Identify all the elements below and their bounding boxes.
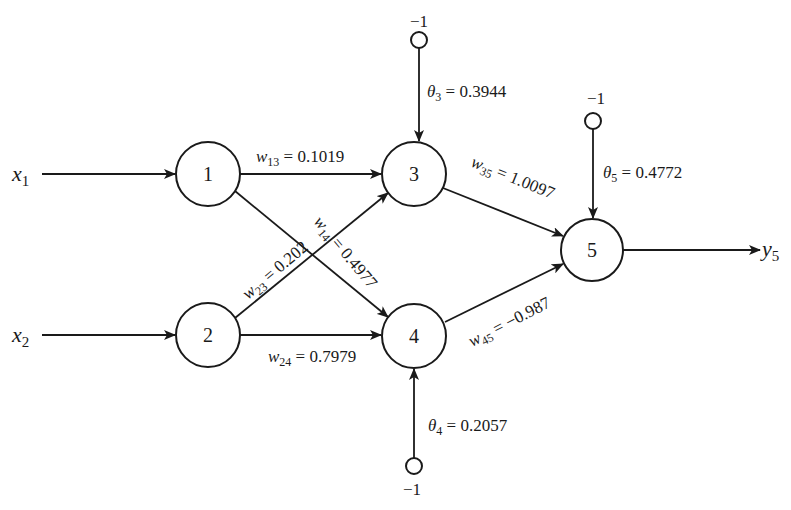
theta3-value: 0.3944 [459,82,506,101]
x2-subscript: 2 [22,334,30,350]
bias4-minus-one: −1 [403,480,421,499]
theta3-symbol: θ [427,82,435,101]
neuron-4-label: 4 [409,325,419,347]
svg-text:x2: x2 [11,322,29,350]
neuron-1-label: 1 [203,163,213,185]
bias3-minus-one: −1 [410,12,428,31]
x2-symbol: x [11,322,22,347]
bias4-circle [406,458,422,474]
theta5-eq: = [617,163,635,182]
svg-text:y5: y5 [760,236,779,264]
x1-symbol: x [11,161,22,186]
weight-w24-label: w24 = 0.7979 [268,347,356,369]
weight-w13-label: w13 = 0.1019 [256,147,344,169]
theta5-value: 0.4772 [635,163,682,182]
x1-subscript: 1 [22,173,30,189]
input-x1: x1 [11,161,175,189]
neural-network-diagram: x1 x2 y5 −1 θ3 = 0.3944 −1 θ5 = 0.4772 −… [0,0,791,510]
output-y5: y5 [623,236,779,264]
neuron-5: 5 [561,219,623,281]
y5-subscript: 5 [772,248,780,264]
theta4-value: 0.2057 [460,416,507,435]
theta3-eq: = [441,82,459,101]
svg-text:x1: x1 [11,161,29,189]
input-x2: x2 [11,322,175,350]
svg-text:θ3 = 0.3944: θ3 = 0.3944 [427,82,507,104]
svg-text:θ5 = 0.4772: θ5 = 0.4772 [603,163,682,185]
neuron-4: 4 [382,304,446,368]
bias-theta4: −1 θ4 = 0.2057 [403,369,508,499]
weight-w45-label: w45 = −0.987 [465,293,555,353]
y5-symbol: y [760,236,772,261]
neuron-3-label: 3 [409,163,419,185]
neuron-2-label: 2 [203,324,213,346]
weight-w23-label: w23 = 0.202 [238,237,313,305]
theta4-symbol: θ [428,416,436,435]
bias-theta3: −1 θ3 = 0.3944 [410,12,507,141]
bias-theta5: −1 θ5 = 0.4772 [585,89,682,218]
bias5-minus-one: −1 [587,89,605,108]
neuron-1: 1 [176,142,240,206]
bias3-circle [411,32,427,48]
bias5-circle [585,113,601,129]
theta5-symbol: θ [603,163,611,182]
neuron-2: 2 [176,303,240,367]
svg-text:θ4 = 0.2057: θ4 = 0.2057 [428,416,508,438]
weight-w35-label: w35 = 1.0097 [467,152,557,206]
neuron-5-label: 5 [587,239,597,261]
neuron-3: 3 [382,142,446,206]
theta4-eq: = [442,416,460,435]
